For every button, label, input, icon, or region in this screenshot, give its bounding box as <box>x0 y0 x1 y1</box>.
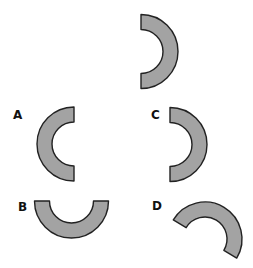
option-b[interactable]: B <box>18 200 109 238</box>
option-c-label: C <box>151 108 160 122</box>
option-a-label: A <box>13 108 23 122</box>
puzzle-diagram: A C B D <box>0 0 253 268</box>
option-d-label: D <box>152 199 162 213</box>
option-d[interactable]: D <box>152 188 253 258</box>
option-b-shape[interactable] <box>35 201 109 238</box>
option-b-label: B <box>18 200 27 214</box>
reference-shape <box>141 15 178 89</box>
option-c[interactable]: C <box>151 108 207 182</box>
option-d-shape[interactable] <box>173 188 253 258</box>
option-c-shape[interactable] <box>170 108 207 182</box>
option-a[interactable]: A <box>13 107 74 181</box>
option-a-shape[interactable] <box>37 107 74 181</box>
